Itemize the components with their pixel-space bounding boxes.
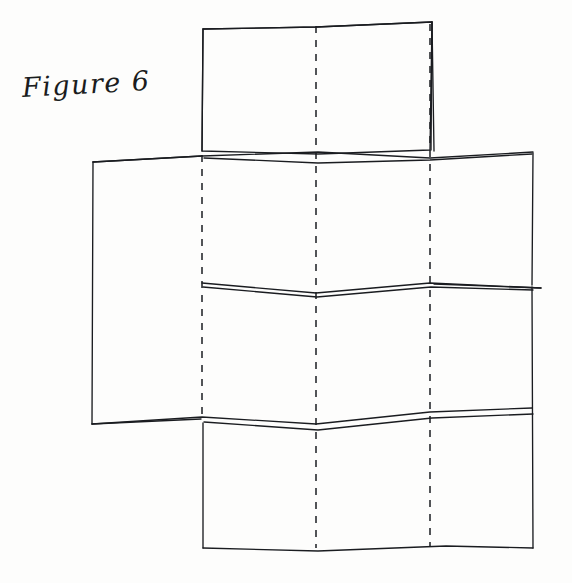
top-panel-left-edge <box>202 29 203 151</box>
right-panel-upper-right-edge <box>432 22 434 151</box>
figure-page: Figure 6 <box>0 0 572 583</box>
top-panel-top-edge <box>203 22 432 29</box>
fold-ridge-lower-second <box>204 414 533 430</box>
bottom-panel-bottom-edge <box>203 546 533 551</box>
left-panel-left-edge <box>92 162 93 424</box>
top-panel-outline <box>202 22 432 154</box>
right-panel-lower-right-edge <box>532 287 533 548</box>
folded-paper-diagram <box>0 0 572 583</box>
right-panel-right-edge <box>532 153 533 285</box>
